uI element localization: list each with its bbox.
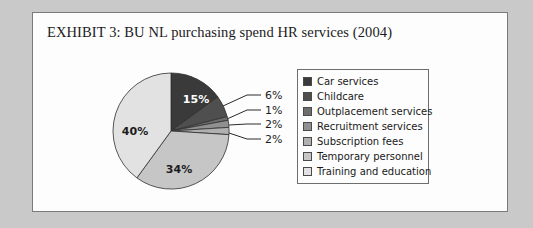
legend-item-label: Recruitment services bbox=[317, 122, 423, 132]
callout-label-childcare: 6% bbox=[265, 89, 282, 102]
legend-swatch-icon bbox=[303, 92, 312, 101]
legend-swatch-icon bbox=[303, 152, 312, 161]
leader-line-outplacement-services bbox=[227, 110, 261, 119]
legend-item-car-services[interactable]: Car services bbox=[303, 74, 423, 89]
legend-item-label: Subscription fees bbox=[317, 137, 403, 147]
slice-value-label-car-services: 15% bbox=[183, 93, 209, 106]
callout-label-outplacement-services: 1% bbox=[265, 104, 282, 117]
legend-swatch-icon bbox=[303, 122, 312, 131]
legend-item-subscription-fees[interactable]: Subscription fees bbox=[303, 134, 423, 149]
leader-line-childcare bbox=[223, 95, 261, 106]
legend-item-childcare[interactable]: Childcare bbox=[303, 89, 423, 104]
callout-label-subscription-fees: 2% bbox=[265, 133, 282, 146]
pie-chart-svg: 15% 34% 40% 6% 1% 2% 2% bbox=[83, 45, 323, 205]
legend-swatch-icon bbox=[303, 77, 312, 86]
legend-item-label: Car services bbox=[317, 77, 378, 87]
legend: Car services Childcare Outplacement serv… bbox=[297, 69, 429, 184]
pie-chart-figure: 15% 34% 40% 6% 1% 2% 2% Car services Chi… bbox=[33, 13, 508, 212]
legend-item-label: Outplacement services bbox=[317, 107, 432, 117]
callout-label-recruitment-services: 2% bbox=[265, 118, 282, 131]
slice-value-label-temporary-personnel: 34% bbox=[166, 163, 192, 176]
legend-item-recruitment-services[interactable]: Recruitment services bbox=[303, 119, 423, 134]
leader-line-recruitment-services bbox=[229, 124, 261, 125]
legend-item-temporary-personnel[interactable]: Temporary personnel bbox=[303, 149, 423, 164]
legend-swatch-icon bbox=[303, 107, 312, 116]
legend-item-training-and-education[interactable]: Training and education bbox=[303, 164, 423, 179]
legend-item-label: Training and education bbox=[317, 167, 431, 177]
legend-swatch-icon bbox=[303, 137, 312, 146]
leader-line-subscription-fees bbox=[229, 133, 261, 139]
legend-item-label: Temporary personnel bbox=[317, 152, 423, 162]
legend-swatch-icon bbox=[303, 167, 312, 176]
slice-value-label-training-and-education: 40% bbox=[122, 125, 148, 138]
exhibit-panel: EXHIBIT 3: BU NL purchasing spend HR ser… bbox=[32, 12, 508, 212]
legend-item-outplacement-services[interactable]: Outplacement services bbox=[303, 104, 423, 119]
legend-item-label: Childcare bbox=[317, 92, 364, 102]
